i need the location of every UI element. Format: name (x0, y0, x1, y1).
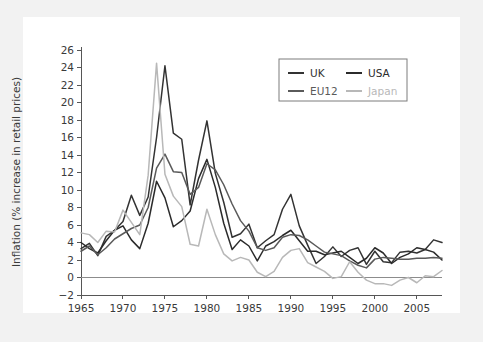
y-tick-label: 14 (61, 149, 75, 161)
y-axis-title: Inflation (% increase in retail prices) (10, 77, 22, 267)
y-axis-ticks: −202468101214161820222426 (59, 44, 81, 301)
y-tick-label: 26 (61, 44, 75, 56)
y-tick-label: 0 (67, 271, 74, 283)
y-tick-label: 22 (61, 79, 74, 91)
x-tick-label: 1995 (319, 302, 346, 314)
y-tick-label: 16 (61, 131, 75, 143)
y-tick-label: −2 (59, 289, 74, 301)
y-tick-label: 18 (61, 114, 74, 126)
x-tick-label: 1975 (152, 302, 179, 314)
y-tick-label: 8 (67, 201, 74, 213)
x-tick-label: 2005 (403, 302, 430, 314)
y-tick-label: 10 (61, 184, 74, 196)
x-tick-label: 1985 (236, 302, 263, 314)
y-tick-label: 20 (61, 96, 74, 108)
series-line-usa (81, 159, 442, 263)
y-tick-label: 12 (61, 166, 74, 178)
figure-root: −202468101214161820222426 19651970197519… (0, 0, 483, 342)
inflation-line-chart: −202468101214161820222426 19651970197519… (0, 0, 483, 342)
x-tick-label: 2000 (361, 302, 388, 314)
x-axis-ticks: 196519701975198019851990199520002005 (68, 295, 431, 314)
x-tick-label: 1980 (194, 302, 221, 314)
series-line-eu12 (81, 154, 442, 268)
x-tick-label: 1965 (68, 302, 95, 314)
x-tick-label: 1970 (110, 302, 137, 314)
legend-label-usa[interactable]: USA (368, 67, 391, 79)
legend-label-eu12[interactable]: EU12 (310, 85, 338, 97)
y-tick-label: 4 (67, 236, 74, 248)
x-tick-label: 1990 (278, 302, 305, 314)
y-tick-label: 24 (61, 61, 75, 73)
y-tick-label: 2 (67, 254, 74, 266)
legend-label-uk[interactable]: UK (310, 67, 326, 79)
legend-label-japan[interactable]: Japan (367, 85, 397, 97)
y-tick-label: 6 (67, 219, 74, 231)
chart-legend[interactable]: UKUSAEU12Japan (279, 59, 407, 101)
